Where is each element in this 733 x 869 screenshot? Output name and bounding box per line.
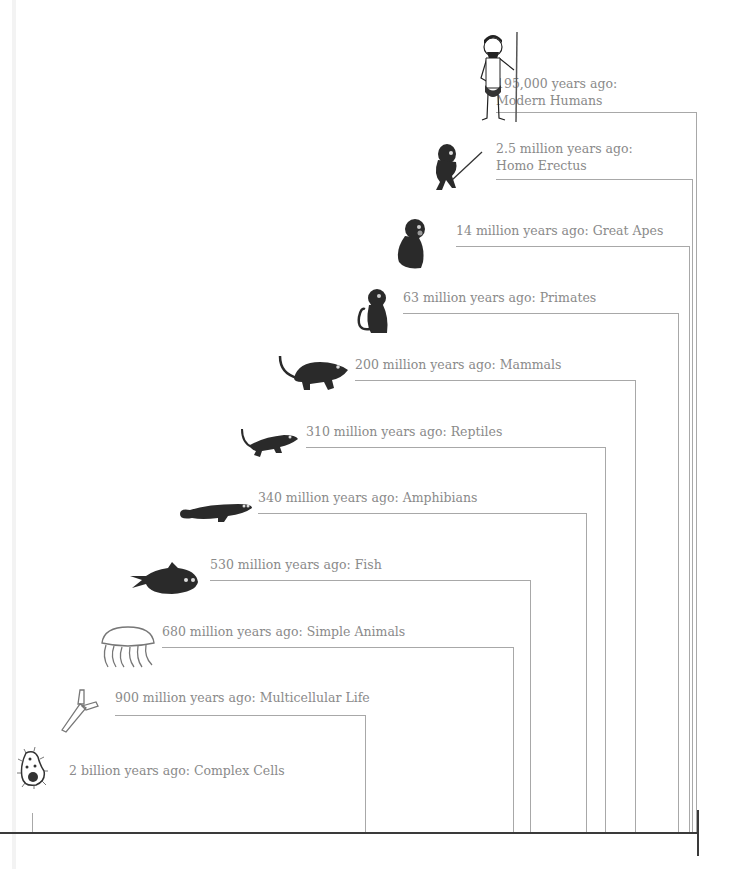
fish-icon <box>128 562 200 598</box>
event-label-great-apes: 14 million years ago: Great Apes <box>456 222 663 239</box>
event-label-simple-animals: 680 million years ago: Simple Animals <box>162 623 405 640</box>
salamander-icon <box>178 500 254 526</box>
event-label-homo-erectus: 2.5 million years ago: Homo Erectus <box>496 140 633 174</box>
event-label-primates: 63 million years ago: Primates <box>403 289 596 306</box>
cell-icon <box>16 747 50 789</box>
monkey-icon <box>355 287 391 337</box>
lizard-icon <box>240 427 300 459</box>
event-label-fish: 530 million years ago: Fish <box>210 556 382 573</box>
page-left-edge <box>12 0 16 869</box>
event-label-multicellular-life: 900 million years ago: Multicellular Lif… <box>115 689 370 706</box>
event-date: 2.5 million years ago: <box>496 140 633 157</box>
hominid-with-spear-icon <box>430 140 485 192</box>
event-name: Homo Erectus <box>496 157 633 174</box>
event-label-mammals: 200 million years ago: Mammals <box>355 356 562 373</box>
multicellular-organism-icon <box>58 688 100 734</box>
event-label-reptiles: 310 million years ago: Reptiles <box>306 423 502 440</box>
event-label-complex-cells: 2 billion years ago: Complex Cells <box>69 762 285 779</box>
ape-icon <box>395 218 431 270</box>
event-label-amphibians: 340 million years ago: Amphibians <box>258 489 478 506</box>
timeline-present-marker <box>697 810 699 856</box>
jellyfish-icon <box>98 623 158 671</box>
caveman-icon <box>476 30 526 125</box>
rodent-icon <box>276 354 352 394</box>
timeline-axis <box>0 832 698 834</box>
